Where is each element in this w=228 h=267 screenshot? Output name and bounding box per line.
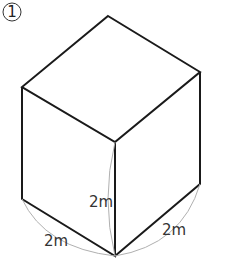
cube-right-face: [115, 72, 200, 256]
depth-label: 2m: [162, 221, 186, 239]
cube-left-face: [22, 87, 115, 256]
cube-top-face: [22, 16, 200, 142]
height-label: 2m: [89, 193, 113, 211]
cube-diagram: 1 2m 2m 2m: [0, 0, 228, 267]
problem-number: 1: [7, 3, 17, 21]
width-label: 2m: [44, 232, 68, 250]
